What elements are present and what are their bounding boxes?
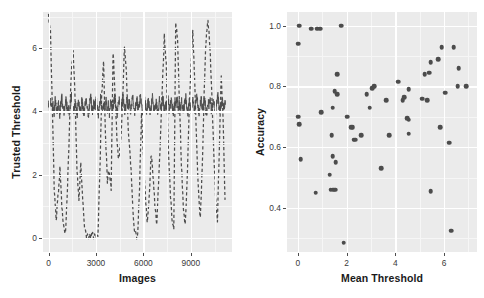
minor-gridline (322, 12, 323, 252)
minor-gridline (468, 12, 469, 252)
x-tick-label: 9000 (182, 258, 201, 268)
scatter-point (443, 90, 448, 95)
scatter-point (455, 84, 460, 89)
y-tick-label: 0 (15, 233, 37, 243)
panel-accuracy-vs-threshold: Accuracy Mean Threshold 02460.40.60.81.0 (242, 0, 484, 298)
scatter-point (318, 26, 323, 31)
y-tick-mark (39, 175, 42, 176)
scatter-point (387, 133, 392, 138)
scatter-point (339, 23, 344, 28)
right-panel-x-axis-title: Mean Threshold (287, 272, 477, 284)
scatter-point (436, 57, 441, 62)
scatter-point (296, 115, 301, 120)
minor-gridline (420, 12, 421, 252)
scatter-point (297, 122, 302, 127)
scatter-point (297, 23, 302, 28)
x-tick-mark (395, 253, 396, 256)
scatter-point (329, 133, 334, 138)
scatter-point (456, 66, 461, 71)
x-tick-mark (347, 253, 348, 256)
x-tick-label: 3000 (87, 258, 106, 268)
y-tick-mark (283, 147, 286, 148)
scatter-point (330, 154, 335, 159)
scatter-point (425, 98, 430, 103)
scatter-point (335, 92, 340, 97)
x-tick-label: 0 (46, 258, 51, 268)
minor-gridline (287, 178, 477, 179)
scatter-point (333, 160, 338, 165)
x-tick-mark (96, 253, 97, 256)
scatter-point (439, 45, 444, 50)
right-panel-y-axis-title: Accuracy (254, 12, 266, 252)
minor-gridline (287, 56, 477, 57)
scatter-point (349, 125, 354, 130)
y-tick-label: 6 (15, 43, 37, 53)
right-panel-plot-area (287, 12, 477, 252)
x-tick-label: 6000 (134, 258, 153, 268)
scatter-point (449, 228, 454, 233)
scatter-point (406, 87, 411, 92)
x-tick-mark (49, 253, 50, 256)
scatter-point (464, 84, 469, 89)
scatter-point (452, 45, 457, 50)
scatter-point (406, 118, 411, 123)
scatter-point (364, 92, 369, 97)
x-tick-mark (444, 253, 445, 256)
minor-gridline (43, 17, 232, 18)
y-tick-mark (39, 238, 42, 239)
scatter-point (427, 70, 432, 75)
scatter-point (447, 140, 452, 145)
y-tick-mark (283, 208, 286, 209)
scatter-point (327, 172, 332, 177)
scatter-point (296, 42, 301, 47)
scatter-point (396, 80, 401, 85)
scatter-point (372, 84, 377, 89)
x-tick-mark (298, 253, 299, 256)
major-gridline (287, 147, 477, 148)
y-tick-mark (39, 48, 42, 49)
minor-gridline (43, 206, 232, 207)
scatter-point (379, 166, 384, 171)
panel-trusted-threshold: Trusted Threshold Images 030006000900002… (0, 0, 242, 298)
major-gridline (43, 48, 232, 49)
scatter-point (368, 105, 373, 110)
scatter-point (330, 105, 335, 110)
y-tick-mark (283, 86, 286, 87)
x-tick-mark (143, 253, 144, 256)
major-gridline (287, 208, 477, 209)
scatter-point (299, 157, 304, 162)
y-tick-label: 4 (15, 106, 37, 116)
scatter-point (353, 137, 358, 142)
major-gridline (43, 238, 232, 239)
y-tick-mark (39, 111, 42, 112)
major-gridline (444, 12, 445, 252)
major-gridline (43, 175, 232, 176)
minor-gridline (287, 117, 477, 118)
scatter-point (428, 60, 433, 65)
scatter-point (400, 98, 405, 103)
x-tick-label: 2 (344, 258, 349, 268)
scatter-point (333, 187, 338, 192)
x-tick-label: 0 (296, 258, 301, 268)
minor-gridline (287, 238, 477, 239)
major-gridline (347, 12, 348, 252)
figure-container: Trusted Threshold Images 030006000900002… (0, 0, 484, 298)
y-tick-label: 1.0 (259, 21, 281, 31)
y-tick-mark (283, 26, 286, 27)
y-tick-label: 2 (15, 170, 37, 180)
y-tick-label: 0.6 (259, 142, 281, 152)
y-tick-label: 0.8 (259, 81, 281, 91)
left-panel-x-axis-title: Images (43, 272, 232, 284)
scatter-point (309, 26, 314, 31)
scatter-point (341, 241, 346, 246)
scatter-point (406, 131, 411, 136)
major-gridline (287, 86, 477, 87)
scatter-point (319, 110, 324, 115)
x-tick-label: 6 (442, 258, 447, 268)
left-panel-plot-area (43, 12, 232, 252)
scatter-point (335, 72, 340, 77)
scatter-point (313, 190, 318, 195)
major-gridline (43, 111, 232, 112)
x-tick-label: 4 (393, 258, 398, 268)
major-gridline (298, 12, 299, 252)
